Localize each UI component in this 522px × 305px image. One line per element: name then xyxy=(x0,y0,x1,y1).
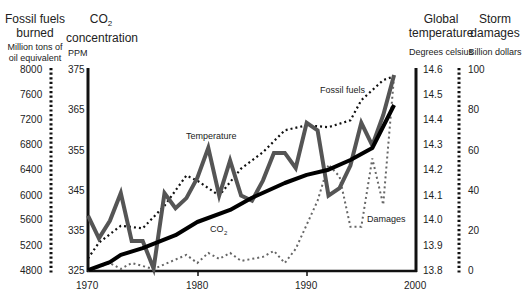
co2-annotation: CO xyxy=(210,224,224,234)
co2-series xyxy=(88,105,394,270)
chart-plot: Temperature Fossil fuels CO 2 Damages xyxy=(0,0,522,305)
temperature-annotation: Temperature xyxy=(186,131,237,141)
temperature-series xyxy=(88,75,394,269)
damages-annotation: Damages xyxy=(367,214,406,224)
fossil-fuels-annotation: Fossil fuels xyxy=(320,85,366,95)
co2-annotation-sub: 2 xyxy=(224,230,228,236)
